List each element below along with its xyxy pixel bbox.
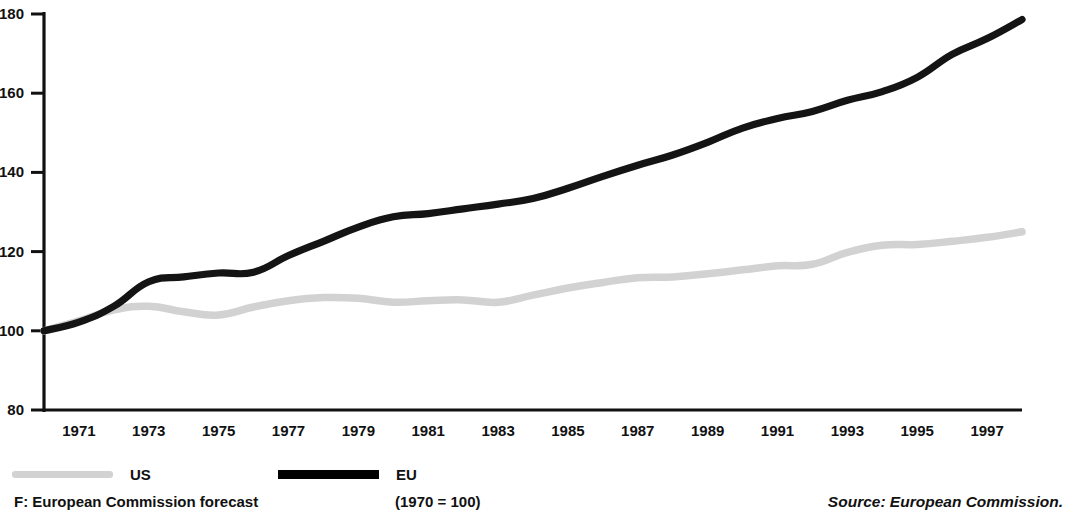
line-chart-plot: 18016014012010080 1971197319751977197919…	[0, 0, 1071, 460]
legend-item-us: US	[12, 458, 151, 490]
base-index-note: (1970 = 100)	[395, 493, 480, 510]
x-axis-tick-label: 1995	[901, 422, 934, 439]
x-axis-tick-label: 1985	[551, 422, 584, 439]
chart-legend: US EU	[0, 458, 1071, 490]
y-axis-tick-label: 140	[0, 163, 24, 180]
forecast-note: F: European Commission forecast	[14, 493, 258, 510]
us-line-swatch-icon	[12, 471, 113, 478]
series-line-eu	[44, 20, 1022, 331]
x-axis-tick-label: 1973	[132, 422, 165, 439]
y-axis-tick-label: 120	[0, 243, 24, 260]
x-axis-tick-label: 1977	[272, 422, 305, 439]
series-group	[44, 20, 1022, 331]
y-axis-tick-label: 80	[7, 401, 24, 418]
x-axis-tick-label: 1975	[202, 422, 235, 439]
y-axis-tick-label: 100	[0, 322, 24, 339]
x-axis-tick-label: 1997	[970, 422, 1003, 439]
x-axis-tick-label: 1981	[412, 422, 445, 439]
x-axis-tick-label: 1993	[831, 422, 864, 439]
legend-label-us: US	[130, 467, 151, 482]
x-axis-tick-labels: 1971197319751977197919811983198519871989…	[62, 422, 1004, 439]
y-axis-tick-labels: 18016014012010080	[0, 5, 24, 418]
x-axis-tick-label: 1987	[621, 422, 654, 439]
series-line-us	[44, 232, 1022, 331]
y-axis-ticks	[31, 14, 44, 410]
legend-item-eu: EU	[278, 458, 417, 490]
x-axis-tick-label: 1979	[342, 422, 375, 439]
x-axis-tick-label: 1989	[691, 422, 724, 439]
x-axis-tick-label: 1991	[761, 422, 794, 439]
y-axis-tick-label: 160	[0, 84, 24, 101]
legend-label-eu: EU	[396, 467, 417, 482]
source-note: Source: European Commission.	[828, 493, 1063, 511]
chart-container: 18016014012010080 1971197319751977197919…	[0, 0, 1071, 521]
x-axis-tick-label: 1983	[481, 422, 514, 439]
x-axis-group: 1971197319751977197919811983198519871989…	[44, 410, 1022, 439]
x-axis-tick-label: 1971	[62, 422, 95, 439]
chart-footer: F: European Commission forecast (1970 = …	[0, 493, 1071, 521]
eu-line-swatch-icon	[278, 470, 379, 479]
y-axis-group: 18016014012010080	[0, 5, 44, 418]
y-axis-tick-label: 180	[0, 5, 24, 22]
